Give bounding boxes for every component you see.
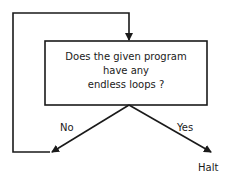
flowchart-diagram: Does the given program have any endless … [0,0,233,176]
decision-question: Does the given program have any endless … [46,50,206,92]
question-line-3: endless loops ? [46,78,206,92]
question-line-1: Does the given program [46,50,206,64]
yes-branch-arrow [129,105,211,152]
question-line-2: have any [46,64,206,78]
yes-label: Yes [177,122,193,133]
halt-label: Halt [198,162,218,173]
no-label: No [60,122,74,133]
